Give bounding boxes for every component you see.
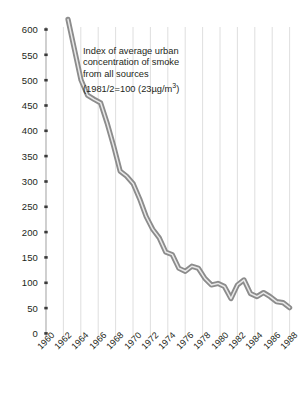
x-axis-tick-label: 1964 xyxy=(70,331,91,352)
annotation-line-2: concentration of smoke xyxy=(83,57,207,68)
x-axis-tick-label: 1976 xyxy=(175,331,196,352)
x-axis-tick-label: 1986 xyxy=(262,331,283,352)
chart-annotation: Index of average urban concentration of … xyxy=(83,46,207,96)
x-axis-tick-label: 1988 xyxy=(279,331,300,352)
x-axis-tick-label: 1970 xyxy=(123,331,144,352)
annotation-line-4: (1981/2=100 (23µg/m3) xyxy=(83,80,207,96)
x-axis-tick-label: 1972 xyxy=(140,331,161,352)
smoke-concentration-chart: 600550500450400350300250200150100500 196… xyxy=(0,0,302,393)
x-axis-tick-label: 1980 xyxy=(210,331,231,352)
x-axis-tick-label: 1984 xyxy=(244,331,265,352)
x-axis-tick-label: 1982 xyxy=(227,331,248,352)
x-axis-tick-label: 1974 xyxy=(157,331,178,352)
x-axis-tick-label: 1962 xyxy=(53,331,74,352)
x-axis-tick-label: 1960 xyxy=(36,331,57,352)
annotation-line-1: Index of average urban xyxy=(83,46,207,57)
annotation-line-3: from all sources xyxy=(83,69,207,80)
x-axis-tick-label: 1968 xyxy=(105,331,126,352)
annotation-line-4-close: ) xyxy=(176,84,179,94)
annotation-line-4-text: (1981/2=100 (23µg/m xyxy=(83,84,172,94)
x-axis-tick-label: 1978 xyxy=(192,331,213,352)
x-axis-tick-label: 1966 xyxy=(88,331,109,352)
